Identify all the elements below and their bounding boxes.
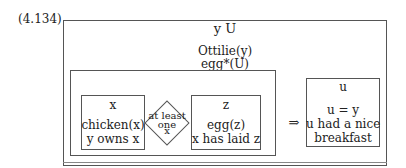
egg-box-condition-1: egg(z) — [191, 118, 261, 132]
chicken-box-referent: x — [81, 98, 145, 112]
outer-box-double-line — [63, 162, 387, 163]
consequent-condition-2: u had a nice — [306, 117, 380, 131]
egg-box-referent: z — [191, 98, 261, 112]
chicken-box-condition-1: chicken(x) — [81, 118, 145, 132]
egg-box-condition-2: x has laid z — [191, 132, 261, 146]
consequent-condition-3: breakfast — [306, 131, 380, 145]
consequent-condition-1: u = y — [306, 103, 380, 117]
quantifier-line-3: x — [145, 126, 189, 135]
equation-label: (4.134) — [18, 12, 62, 26]
outer-condition-ottilie: Ottilie(y) — [63, 44, 387, 58]
outer-condition-egg: egg*(U) — [63, 57, 387, 71]
outer-referents: y U — [63, 22, 387, 36]
chicken-box-condition-2: y owns x — [81, 132, 145, 146]
implication-arrow-icon: ⇒ — [282, 116, 306, 130]
consequent-referent: u — [306, 80, 380, 94]
